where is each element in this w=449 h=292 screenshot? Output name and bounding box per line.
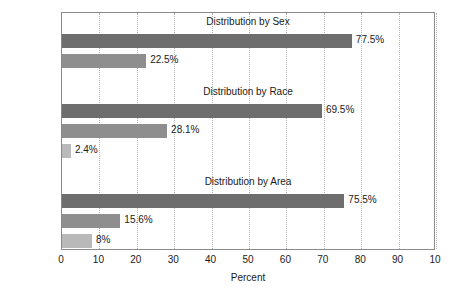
gridline-90	[399, 13, 400, 249]
x-tick-label-30: 30	[158, 254, 188, 265]
bar-chart: Percent 010203040506070809010Distributio…	[0, 0, 449, 292]
value-label-white: 69.5%	[326, 104, 354, 115]
bar-other	[62, 144, 71, 158]
x-tick-label-50: 50	[233, 254, 263, 265]
gridline-60	[286, 13, 287, 249]
value-label-rural-areas: 8%	[96, 234, 110, 245]
x-tick-label-90: 90	[383, 254, 413, 265]
value-label-female: 22.5%	[150, 54, 178, 65]
gridline-50	[249, 13, 250, 249]
bar-female	[62, 54, 146, 68]
gridline-80	[361, 13, 362, 249]
gridline-40	[212, 13, 213, 249]
bar-suburbs	[62, 214, 120, 228]
x-axis-title: Percent	[61, 272, 435, 283]
x-tick-label-100: 10	[420, 254, 449, 265]
value-label-cities: 75.5%	[348, 194, 376, 205]
gridline-70	[324, 13, 325, 249]
group-title-1: Distribution by Race	[61, 86, 435, 97]
bar-white	[62, 104, 322, 118]
x-tick-label-70: 70	[308, 254, 338, 265]
bar-male	[62, 34, 352, 48]
plot-area	[61, 12, 435, 250]
x-tick-label-0: 0	[46, 254, 76, 265]
group-title-2: Distribution by Area	[61, 176, 435, 187]
group-title-0: Distribution by Sex	[61, 16, 435, 27]
bar-rural-areas	[62, 234, 92, 248]
x-tick-label-20: 20	[121, 254, 151, 265]
bar-black	[62, 124, 167, 138]
value-label-male: 77.5%	[356, 34, 384, 45]
gridline-100	[436, 13, 437, 249]
bar-cities	[62, 194, 344, 208]
x-tick-label-10: 10	[83, 254, 113, 265]
x-tick-label-40: 40	[196, 254, 226, 265]
value-label-other: 2.4%	[75, 144, 98, 155]
value-label-black: 28.1%	[171, 124, 199, 135]
value-label-suburbs: 15.6%	[124, 214, 152, 225]
x-tick-label-60: 60	[270, 254, 300, 265]
x-tick-label-80: 80	[345, 254, 375, 265]
